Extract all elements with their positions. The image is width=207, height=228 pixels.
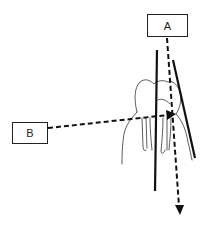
slanted-reference-line [173, 60, 195, 158]
label-a-text: A [164, 20, 171, 32]
arrow-a-head-icon [175, 205, 184, 215]
label-b-text: B [26, 127, 33, 139]
vertical-reference-line [155, 50, 157, 191]
label-box-b: B [12, 122, 48, 144]
label-box-a: A [147, 14, 188, 37]
